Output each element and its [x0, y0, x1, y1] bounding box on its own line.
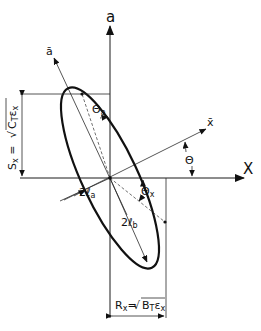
x-axis-label: X [243, 160, 253, 178]
theta-arrow-up [185, 142, 186, 152]
x-bar-label: x̄ [207, 116, 214, 129]
rx-formula: Rx= √ BTεx [115, 298, 165, 313]
sx-formula: Sx = √ CTεx [6, 98, 20, 170]
right-tangent-point [163, 220, 166, 223]
a-axis-label: a [106, 8, 115, 26]
right-tangent-dashed [110, 178, 165, 222]
top-tangent-point [80, 92, 83, 95]
major-axis-label: 2ℓb [121, 216, 138, 230]
theta-a-label: Θa [92, 103, 106, 117]
svg-text:Sx =: Sx = [6, 146, 20, 170]
theta-label: Θ [185, 154, 194, 167]
a-bar-label: ā [46, 45, 53, 58]
svg-text:BTεx: BTεx [142, 299, 165, 313]
svg-text:√: √ [133, 299, 141, 312]
origin-point [108, 176, 112, 180]
phase-ellipse-diagram: a X ā x̄ Sx = √ CTεx Rx= √ BTε [0, 0, 261, 331]
svg-text:CTεx: CTεx [6, 105, 20, 129]
svg-text:√: √ [6, 130, 19, 138]
theta-x-label: Θx [141, 185, 155, 199]
minor-axis-label: 2ℓa [79, 186, 96, 200]
